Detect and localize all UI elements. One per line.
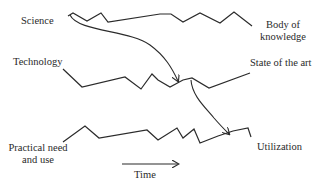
practical-utilization-line — [63, 126, 251, 143]
label-body-of-knowledge: Body of knowledge — [258, 19, 308, 43]
label-body-line2: knowledge — [260, 31, 306, 42]
label-practical-need: Practical need and use — [8, 142, 68, 166]
label-practical-line1: Practical need — [8, 142, 67, 153]
science-knowledge-line — [68, 12, 252, 26]
label-utilization: Utilization — [257, 141, 302, 153]
label-science: Science — [21, 15, 54, 27]
label-time: Time — [134, 169, 156, 181]
technology-state-line — [63, 69, 250, 89]
label-practical-line2: and use — [22, 154, 54, 165]
label-technology: Technology — [13, 56, 62, 68]
label-state-of-the-art: State of the art — [250, 57, 312, 69]
science-to-technology-arrow — [70, 15, 178, 81]
label-body-line1: Body of — [266, 19, 300, 30]
